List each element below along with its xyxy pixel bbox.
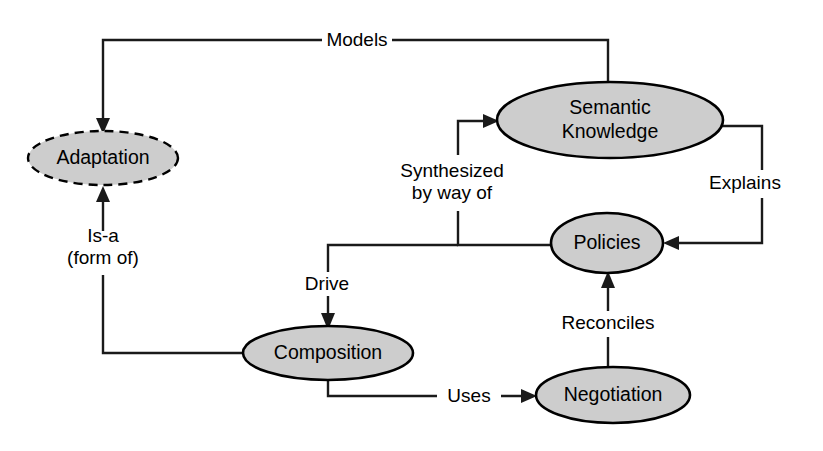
diagram-canvas: Models Is-a (form of) Synthesized by way… bbox=[0, 0, 823, 451]
node-semantic-knowledge-label-line1: Semantic bbox=[569, 96, 651, 118]
node-policies[interactable]: Policies bbox=[551, 213, 663, 273]
node-semantic-knowledge[interactable]: Semantic Knowledge bbox=[497, 82, 723, 158]
node-adaptation[interactable]: Adaptation bbox=[28, 131, 178, 185]
edge-uses: Uses bbox=[328, 378, 537, 406]
node-semantic-knowledge-label-line2: Knowledge bbox=[562, 120, 659, 142]
edge-models-label: Models bbox=[326, 29, 387, 50]
edge-is-a-label-line2: (form of) bbox=[67, 247, 139, 268]
edge-uses-path bbox=[328, 378, 525, 396]
edge-is-a: Is-a (form of) bbox=[67, 186, 247, 353]
edge-uses-label: Uses bbox=[447, 385, 490, 406]
edge-reconciles: Reconciles bbox=[562, 271, 655, 370]
edge-drive: Drive bbox=[305, 245, 458, 330]
concept-diagram: Models Is-a (form of) Synthesized by way… bbox=[0, 0, 823, 451]
edge-explains-arrowhead bbox=[663, 236, 679, 250]
edge-reconciles-label: Reconciles bbox=[562, 312, 655, 333]
node-adaptation-label: Adaptation bbox=[56, 146, 149, 168]
edge-synthesized-label-line2: by way of bbox=[412, 182, 493, 203]
edge-is-a-path bbox=[103, 198, 247, 353]
node-negotiation-label: Negotiation bbox=[564, 383, 663, 405]
edge-uses-arrowhead bbox=[521, 389, 537, 403]
node-composition-label: Composition bbox=[274, 341, 382, 363]
edge-explains-label: Explains bbox=[709, 172, 781, 193]
node-composition[interactable]: Composition bbox=[243, 326, 413, 380]
edge-drive-label: Drive bbox=[305, 273, 349, 294]
node-negotiation[interactable]: Negotiation bbox=[536, 367, 690, 423]
edge-synthesized-label-line1: Synthesized bbox=[400, 160, 504, 181]
edge-is-a-arrowhead bbox=[96, 186, 110, 202]
node-policies-label: Policies bbox=[573, 231, 640, 253]
edge-is-a-label-line1: Is-a bbox=[87, 225, 119, 246]
